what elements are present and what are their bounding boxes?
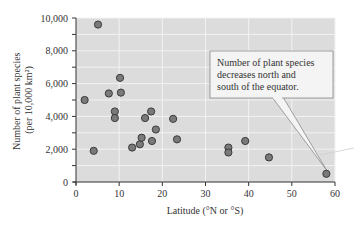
- data-point: [105, 90, 112, 97]
- data-point: [170, 115, 177, 122]
- x-tick-label: 30: [201, 188, 211, 199]
- x-tick-label: 10: [114, 188, 124, 199]
- data-point: [138, 134, 145, 141]
- data-point: [148, 137, 155, 144]
- data-point: [81, 96, 88, 103]
- data-point: [111, 114, 118, 121]
- y-axis-label-line-1: Number of plant species: [11, 52, 22, 150]
- x-axis-ticks: 0102030405060: [74, 182, 341, 199]
- callout-text-line: decreases north and: [217, 69, 296, 80]
- y-tick-label: 0: [63, 177, 68, 188]
- data-point: [94, 21, 101, 28]
- y-tick-label: 2,000: [46, 144, 69, 155]
- data-point: [225, 149, 232, 156]
- data-point: [265, 154, 272, 161]
- x-axis-label: Latitude (°N or °S): [167, 205, 244, 217]
- data-point: [117, 89, 124, 96]
- data-point: [90, 147, 97, 154]
- callout-text-line: south of the equator.: [217, 81, 299, 92]
- x-tick-label: 50: [287, 188, 297, 199]
- data-point: [136, 141, 143, 148]
- y-tick-label: 4,000: [46, 111, 69, 122]
- x-tick-label: 40: [244, 188, 254, 199]
- data-point: [242, 137, 249, 144]
- y-tick-label: 8,000: [46, 45, 69, 56]
- x-tick-label: 20: [157, 188, 167, 199]
- scatter-chart: 0102030405060 02,0004,0006,0008,00010,00…: [0, 0, 354, 226]
- callout-joint: [273, 96, 282, 99]
- y-axis-label: Number of plant species (per 10,000 km²): [11, 50, 35, 150]
- data-point: [152, 126, 159, 133]
- y-tick-label: 6,000: [46, 78, 69, 89]
- callout-text-line: Number of plant species: [217, 57, 315, 68]
- x-tick-label: 60: [330, 188, 340, 199]
- x-tick-label: 0: [74, 188, 79, 199]
- y-axis-ticks: 02,0004,0006,0008,00010,000: [41, 13, 77, 188]
- data-point: [141, 114, 148, 121]
- y-axis-label-line-2: (per 10,000 km²): [23, 66, 35, 134]
- data-point: [323, 170, 330, 177]
- data-point: [173, 136, 180, 143]
- data-point: [129, 144, 136, 151]
- data-point: [148, 108, 155, 115]
- y-tick-label: 10,000: [41, 13, 69, 24]
- data-point: [116, 74, 123, 81]
